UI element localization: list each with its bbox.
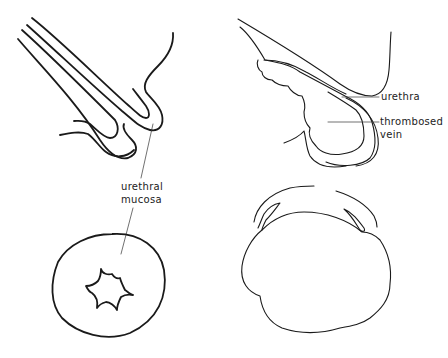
label-thrombosed-vein-line1: thrombosed (380, 115, 443, 128)
label-urethral-mucosa: urethral mucosa (121, 180, 163, 206)
leader-line-urethral-mucosa-top (141, 124, 153, 178)
diagram-canvas (0, 0, 448, 358)
leader-line-urethral-mucosa-bottom (121, 208, 133, 254)
label-urethral-mucosa-line1: urethral (121, 180, 163, 193)
panel-top-right-thrombosed-prolapse (238, 19, 391, 167)
label-urethral-mucosa-line2: mucosa (121, 193, 163, 206)
label-thrombosed-vein: thrombosed vein (380, 115, 443, 141)
label-urethra: urethra (381, 90, 420, 103)
label-thrombosed-vein-line2: vein (380, 128, 443, 141)
panel-bottom-right-thrombosed-mass (242, 186, 391, 333)
panel-bottom-left-mucosa-ring (52, 234, 164, 337)
